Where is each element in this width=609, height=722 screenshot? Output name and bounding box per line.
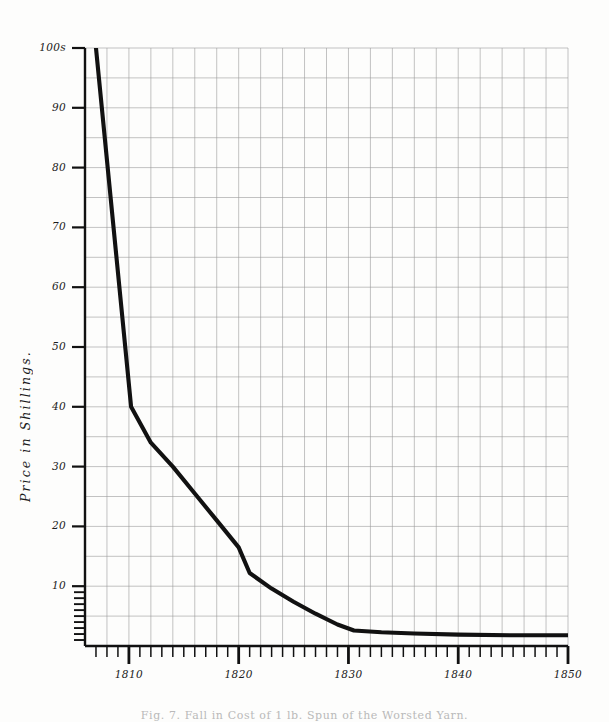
y-tick-label: 90: [26, 101, 66, 113]
data-series-line: [96, 48, 568, 635]
y-tick-label: 20: [26, 519, 66, 531]
y-axis-ticks: [72, 48, 85, 586]
x-tick-label: 1830: [325, 668, 371, 680]
y-axis-minor-ticks: [74, 592, 85, 640]
y-tick-label: 70: [26, 220, 66, 232]
y-tick-label: 40: [26, 400, 66, 412]
y-tick-label: 60: [26, 280, 66, 292]
grid-lines: [85, 48, 568, 646]
x-axis-ticks: [96, 646, 568, 664]
figure-container: Price in Shillings. 10203040506070809010…: [0, 0, 609, 722]
x-tick-label: 1840: [435, 668, 481, 680]
y-tick-label: 100s: [26, 41, 66, 53]
x-tick-label: 1810: [106, 668, 152, 680]
figure-caption: Fig. 7. Fall in Cost of 1 lb. Spun of th…: [0, 709, 609, 722]
y-tick-label: 50: [26, 340, 66, 352]
x-tick-label: 1820: [216, 668, 262, 680]
y-tick-label: 80: [26, 161, 66, 173]
y-tick-label: 30: [26, 460, 66, 472]
x-tick-label: 1850: [545, 668, 591, 680]
price-decline-line-chart: [0, 0, 609, 722]
y-tick-label: 10: [26, 579, 66, 591]
